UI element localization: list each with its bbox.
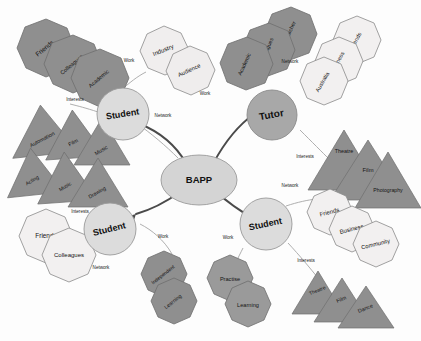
shape-label-colleagues-bl: Colleagues <box>54 252 84 258</box>
cluster-interests-right: Theatre Film Dance <box>292 271 394 328</box>
shape-label-theatre-tutor: Theatre <box>335 148 354 154</box>
edge-label-student-top-network: Network <box>155 113 173 118</box>
node-student-left[interactable]: Student <box>84 203 136 255</box>
cluster-network-bot-left: Friends Colleagues <box>19 209 96 282</box>
node-bapp-center[interactable]: BAPP <box>161 155 237 205</box>
edge-student-top-interests <box>70 104 98 112</box>
shape-label-film-tutor: Film <box>363 167 374 173</box>
mindmap-canvas: Friends Colleagues Academic Industry Aud… <box>0 0 421 341</box>
edge-label-student-left-work: Work <box>158 234 169 239</box>
mindmap-svg: Friends Colleagues Academic Industry Aud… <box>0 0 421 341</box>
node-student-right[interactable]: Student <box>240 198 292 250</box>
edge-label-student-right-work: Work <box>223 235 234 240</box>
node-tutor[interactable]: Tutor <box>247 90 297 140</box>
cluster-work-bot-right: Practise Learning <box>207 255 271 327</box>
shape-label-practise: Practise <box>220 276 240 282</box>
shape-label-photography: Photography <box>373 187 403 193</box>
cluster-work-top-mid: Industry Audience <box>140 26 215 95</box>
edge-label-tutor-network: Network <box>282 59 300 64</box>
node-student-top[interactable]: Student <box>97 88 149 140</box>
edge-label-student-right-network: Network <box>282 183 300 188</box>
edge-label-tutor-work: Work <box>200 91 211 96</box>
shape-label-learning-right: Learning <box>237 302 259 308</box>
edge-label-student-left-interests: Interests <box>71 209 89 214</box>
edge-label-student-left-network: Network <box>93 265 111 270</box>
cluster-work-bot-left: Independent Learning <box>141 251 197 324</box>
node-label-bapp: BAPP <box>186 174 213 185</box>
edge-label-student-right-interests: Interests <box>297 258 315 263</box>
edge-student-left-work <box>140 224 172 254</box>
edge-label-student-top-interests: Interests <box>66 97 84 102</box>
edge-label-tutor-interests: Interests <box>296 154 314 159</box>
edge-label-student-top-work: Work <box>124 58 135 63</box>
